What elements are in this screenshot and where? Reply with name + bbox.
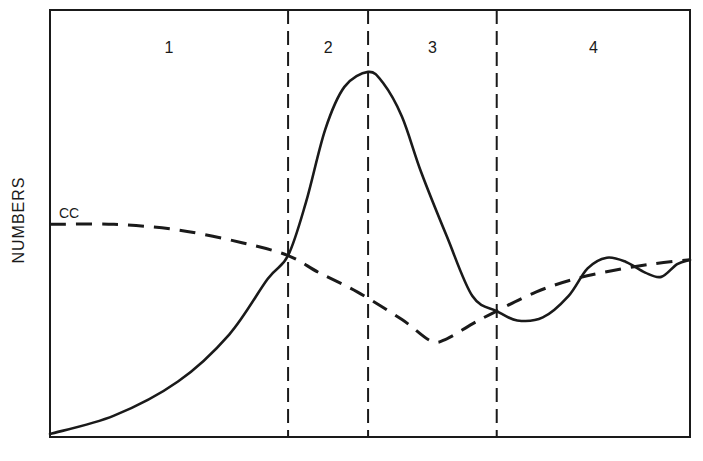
phase-label-4: 4 bbox=[589, 39, 598, 56]
diagram: 1234 NUMBERS CC bbox=[0, 0, 703, 461]
solid-curve bbox=[50, 72, 690, 434]
phase-label-1: 1 bbox=[165, 39, 174, 56]
cc-dashed-curve bbox=[50, 224, 690, 342]
plot-frame bbox=[50, 10, 690, 437]
phase-label-3: 3 bbox=[428, 39, 437, 56]
cc-curve-label: CC bbox=[59, 205, 79, 221]
phase-label-2: 2 bbox=[324, 39, 333, 56]
y-axis-label: NUMBERS bbox=[10, 176, 27, 263]
